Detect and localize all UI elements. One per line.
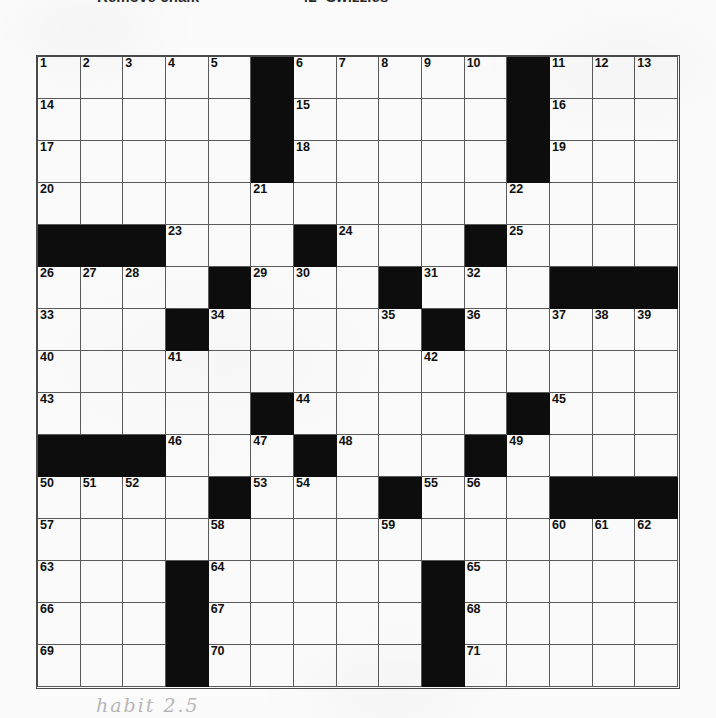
grid-cell[interactable] (294, 183, 337, 225)
grid-cell[interactable]: 66 (38, 603, 81, 645)
grid-cell[interactable] (251, 519, 294, 561)
grid-cell[interactable]: 60 (550, 519, 593, 561)
grid-cell[interactable] (593, 561, 636, 603)
grid-cell[interactable] (251, 351, 294, 393)
grid-cell[interactable] (294, 351, 337, 393)
grid-cell[interactable]: 65 (465, 561, 508, 603)
grid-cell[interactable] (379, 99, 422, 141)
grid-cell[interactable]: 52 (123, 477, 166, 519)
grid-cell[interactable]: 50 (38, 477, 81, 519)
grid-cell[interactable] (507, 351, 550, 393)
grid-cell[interactable] (294, 645, 337, 687)
grid-cell[interactable] (251, 225, 294, 267)
grid-cell[interactable] (123, 519, 166, 561)
grid-cell[interactable]: 48 (337, 435, 380, 477)
grid-cell[interactable]: 20 (38, 183, 81, 225)
grid-cell[interactable] (593, 435, 636, 477)
grid-cell[interactable]: 33 (38, 309, 81, 351)
grid-cell[interactable]: 58 (209, 519, 252, 561)
grid-cell[interactable]: 8 (379, 57, 422, 99)
grid-cell[interactable] (166, 183, 209, 225)
grid-cell[interactable] (81, 351, 124, 393)
grid-cell[interactable] (550, 225, 593, 267)
grid-cell[interactable]: 19 (550, 141, 593, 183)
grid-cell[interactable] (251, 561, 294, 603)
grid-cell[interactable]: 40 (38, 351, 81, 393)
grid-cell[interactable]: 37 (550, 309, 593, 351)
grid-cell[interactable] (337, 519, 380, 561)
grid-cell[interactable] (379, 393, 422, 435)
grid-cell[interactable]: 13 (635, 57, 678, 99)
grid-cell[interactable] (635, 645, 678, 687)
grid-cell[interactable] (635, 141, 678, 183)
grid-cell[interactable]: 70 (209, 645, 252, 687)
grid-cell[interactable] (379, 183, 422, 225)
grid-cell[interactable]: 12 (593, 57, 636, 99)
grid-cell[interactable] (550, 351, 593, 393)
grid-cell[interactable] (166, 477, 209, 519)
grid-cell[interactable] (251, 603, 294, 645)
grid-cell[interactable] (465, 183, 508, 225)
grid-cell[interactable] (123, 393, 166, 435)
grid-cell[interactable]: 10 (465, 57, 508, 99)
grid-cell[interactable] (593, 141, 636, 183)
grid-cell[interactable] (337, 267, 380, 309)
grid-cell[interactable] (379, 603, 422, 645)
grid-cell[interactable]: 47 (251, 435, 294, 477)
grid-cell[interactable]: 30 (294, 267, 337, 309)
grid-cell[interactable] (209, 351, 252, 393)
grid-cell[interactable] (635, 351, 678, 393)
grid-cell[interactable] (209, 99, 252, 141)
grid-cell[interactable] (81, 183, 124, 225)
grid-cell[interactable] (123, 561, 166, 603)
grid-cell[interactable] (507, 267, 550, 309)
grid-cell[interactable] (123, 183, 166, 225)
grid-cell[interactable] (123, 141, 166, 183)
grid-cell[interactable] (507, 645, 550, 687)
grid-cell[interactable] (209, 141, 252, 183)
grid-cell[interactable] (294, 603, 337, 645)
grid-cell[interactable] (251, 309, 294, 351)
grid-cell[interactable] (251, 645, 294, 687)
grid-cell[interactable] (593, 393, 636, 435)
grid-cell[interactable]: 71 (465, 645, 508, 687)
grid-cell[interactable] (209, 183, 252, 225)
grid-cell[interactable]: 51 (81, 477, 124, 519)
grid-cell[interactable]: 61 (593, 519, 636, 561)
grid-cell[interactable]: 42 (422, 351, 465, 393)
grid-cell[interactable] (337, 603, 380, 645)
grid-cell[interactable] (593, 645, 636, 687)
grid-cell[interactable]: 45 (550, 393, 593, 435)
grid-cell[interactable] (294, 519, 337, 561)
grid-cell[interactable]: 29 (251, 267, 294, 309)
grid-cell[interactable] (422, 393, 465, 435)
grid-cell[interactable] (123, 99, 166, 141)
grid-cell[interactable] (465, 351, 508, 393)
grid-cell[interactable]: 35 (379, 309, 422, 351)
grid-cell[interactable] (593, 99, 636, 141)
grid-cell[interactable] (166, 141, 209, 183)
grid-cell[interactable] (123, 645, 166, 687)
grid-cell[interactable] (379, 141, 422, 183)
grid-cell[interactable] (422, 519, 465, 561)
grid-cell[interactable] (635, 99, 678, 141)
grid-cell[interactable] (81, 561, 124, 603)
grid-cell[interactable] (550, 561, 593, 603)
grid-cell[interactable]: 32 (465, 267, 508, 309)
grid-cell[interactable] (294, 309, 337, 351)
grid-cell[interactable]: 67 (209, 603, 252, 645)
grid-cell[interactable] (507, 561, 550, 603)
grid-cell[interactable] (81, 603, 124, 645)
grid-cell[interactable] (81, 99, 124, 141)
grid-cell[interactable]: 55 (422, 477, 465, 519)
grid-cell[interactable] (507, 519, 550, 561)
grid-cell[interactable] (507, 309, 550, 351)
grid-cell[interactable] (422, 141, 465, 183)
grid-cell[interactable] (337, 393, 380, 435)
grid-cell[interactable]: 27 (81, 267, 124, 309)
grid-cell[interactable] (123, 603, 166, 645)
grid-cell[interactable]: 31 (422, 267, 465, 309)
grid-cell[interactable]: 56 (465, 477, 508, 519)
grid-cell[interactable] (635, 435, 678, 477)
grid-cell[interactable] (635, 225, 678, 267)
